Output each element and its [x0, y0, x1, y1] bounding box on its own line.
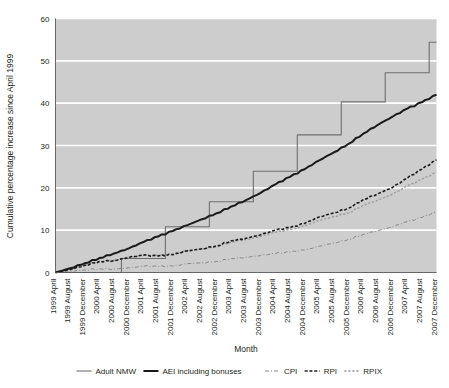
y-tick-label: 20 — [41, 184, 50, 193]
y-tick-label: 0 — [45, 269, 50, 278]
x-axis-title: Month — [234, 344, 258, 354]
y-axis-tick-labels-group: 0102030405060 — [41, 15, 50, 278]
x-tick-label: 2006 December — [386, 278, 395, 335]
y-tick-label: 10 — [41, 226, 50, 235]
x-tick-label: 2001 December — [166, 278, 175, 335]
x-tick-label: 2005 April — [312, 278, 321, 314]
x-tick-label: 2001 April — [136, 278, 145, 314]
x-tick-label: 2007 August — [415, 278, 424, 323]
chart-figure: 0102030405060 1999 April1999 August1999 … — [0, 0, 449, 388]
x-tick-label: 2001 August — [151, 278, 160, 323]
legend-label-rpi: RPI — [324, 367, 337, 376]
chart-legend: Adult NMWAEI including bonusesCPIRPIRPIX — [77, 367, 383, 376]
x-tick-label: 2000 December — [122, 278, 131, 335]
y-axis-title: Cumulative percentage increase since Apr… — [5, 54, 15, 239]
x-tick-label: 1999 December — [78, 278, 87, 335]
x-tick-label: 2003 December — [254, 278, 263, 335]
legend-label-cpi: CPI — [284, 367, 297, 376]
chart-canvas: 0102030405060 1999 April1999 August1999 … — [0, 0, 449, 388]
x-tick-label: 2004 December — [298, 278, 307, 335]
x-tick-label: 2006 April — [356, 278, 365, 314]
x-tick-label: 1999 August — [63, 278, 72, 323]
x-tick-label: 2000 April — [92, 278, 101, 314]
y-tick-label: 40 — [41, 99, 50, 108]
x-tick-label: 2002 December — [210, 278, 219, 335]
y-tick-label: 50 — [41, 57, 50, 66]
x-axis-tick-labels-group: 1999 April1999 August1999 December2000 A… — [49, 278, 439, 336]
y-tick-label: 60 — [41, 15, 50, 24]
x-tick-label: 1999 April — [49, 278, 58, 314]
x-tick-label: 2002 August — [195, 278, 204, 323]
x-tick-label: 2002 April — [180, 278, 189, 314]
legend-label-adult-nmw: Adult NMW — [96, 367, 137, 376]
x-tick-label: 2003 August — [239, 278, 248, 323]
legend-label-rpix: RPIX — [363, 367, 382, 376]
x-tick-label: 2007 April — [400, 278, 409, 314]
x-tick-label: 2004 August — [283, 278, 292, 323]
x-tick-label: 2005 August — [327, 278, 336, 323]
x-tick-label: 2003 April — [224, 278, 233, 314]
x-tick-label: 2007 December — [430, 278, 439, 335]
x-tick-label: 2006 August — [371, 278, 380, 323]
legend-label-aei-including-bonuses: AEI including bonuses — [162, 367, 241, 376]
x-tick-label: 2005 December — [342, 278, 351, 335]
y-tick-label: 30 — [41, 142, 50, 151]
x-tick-label: 2000 August — [107, 278, 116, 323]
x-tick-label: 2004 April — [268, 278, 277, 314]
